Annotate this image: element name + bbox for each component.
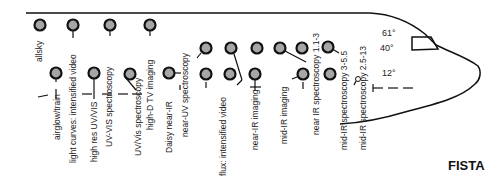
- diagram-title: FISTA: [448, 158, 485, 173]
- viewport-allsky[interactable]: [35, 20, 46, 31]
- label-daisy-near-ir: Daisy near-IR: [164, 101, 174, 153]
- label-near-ir-spectroscopy: near IR spectroscopy 1.1-3: [311, 33, 321, 135]
- angle-61: 61°: [382, 28, 396, 38]
- angle-12: 12°: [382, 68, 396, 78]
- viewport-near-ir-imaging-b[interactable]: [250, 69, 261, 80]
- label-uv-vis-spectroscopy-2: UV/Vis spectroscopy: [133, 77, 143, 156]
- label-flux-intensified-video: flux: intensified video: [218, 97, 228, 176]
- label-uv-vis-spectroscopy: UV-VIS spectroscopy: [104, 66, 114, 147]
- label-light-curves: light curves: intensified video: [68, 54, 78, 163]
- label-airglow-train: airglow/train: [52, 94, 62, 140]
- label-high-d-tv-imaging: high-D TV imaging: [145, 59, 155, 130]
- angle-40: 40°: [380, 43, 394, 53]
- viewport-high-res[interactable]: [89, 68, 100, 79]
- label-near-uv-spectroscopy: near-UV spectroscopy: [180, 52, 190, 137]
- viewport-near-uv-b[interactable]: [201, 69, 212, 80]
- instrument-labels: allsky airglow/train light curves: inten…: [34, 33, 368, 176]
- fista-diagram: allsky airglow/train light curves: inten…: [0, 0, 498, 190]
- label-allsky: allsky: [34, 40, 44, 62]
- viewport-mid-ir-spec-a[interactable]: [323, 42, 334, 53]
- viewport-uv-vis-spectroscopy-a[interactable]: [105, 20, 116, 31]
- viewport-row-top: [35, 20, 156, 31]
- viewport-flux-a[interactable]: [226, 43, 237, 54]
- viewport-light-curves[interactable]: [68, 20, 79, 31]
- viewport-mid-ir-imaging[interactable]: [298, 69, 309, 80]
- viewport-near-ir-imaging-a[interactable]: [252, 43, 263, 54]
- viewport-near-ir-spec-a[interactable]: [275, 43, 286, 54]
- viewport-airglow[interactable]: [51, 68, 62, 79]
- cockpit-window: [412, 37, 438, 50]
- angle-labels: 61° 40° 12°: [380, 28, 396, 78]
- viewport-near-ir-spec-b[interactable]: [297, 43, 308, 54]
- label-near-ir-imaging: near-IR imaging: [250, 89, 260, 150]
- label-mid-ir-spectroscopy-3-5: mid-IR spectroscopy 3-5.5: [339, 51, 349, 150]
- viewport-near-uv[interactable]: [201, 43, 212, 54]
- viewport-flux-b[interactable]: [225, 69, 236, 80]
- label-high-res-uv-vis: high res UV/VIS: [89, 101, 99, 162]
- label-mid-ir-imaging: mid-IR imaging: [279, 87, 289, 144]
- viewport-daisy-near-ir[interactable]: [164, 68, 175, 79]
- label-mid-ir-spectroscopy-2-13: mid-IR spectroscopy 2.5-13: [358, 46, 368, 150]
- viewport-mid-ir-spec-b[interactable]: [325, 69, 336, 80]
- viewport-high-d-tv[interactable]: [145, 20, 156, 31]
